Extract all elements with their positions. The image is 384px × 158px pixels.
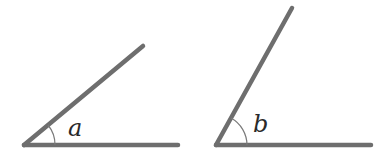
angle-a-arc — [48, 125, 55, 145]
angle-b-arc — [231, 118, 247, 145]
angles-diagram: a b — [0, 0, 384, 158]
angle-a-upper-ray — [24, 46, 143, 145]
angle-b: b — [216, 8, 371, 145]
angle-a-label: a — [68, 114, 82, 142]
angle-a: a — [24, 46, 178, 145]
angle-b-label: b — [253, 110, 268, 138]
